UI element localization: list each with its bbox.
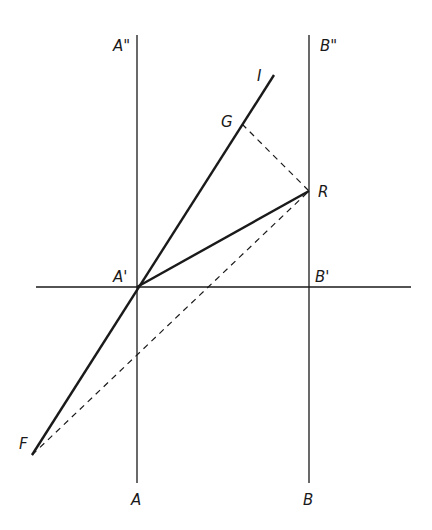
label-g: G xyxy=(221,113,233,131)
line-f-i xyxy=(32,75,274,455)
label-i: I xyxy=(257,67,262,85)
label-r: R xyxy=(318,183,328,201)
label-a: A xyxy=(130,491,141,509)
dashed-segment-f-r xyxy=(32,191,309,455)
label-a-double-prime: A" xyxy=(112,37,130,55)
dashed-segment-g-r xyxy=(242,124,309,191)
label-b-prime: B' xyxy=(315,268,329,286)
label-a-prime: A' xyxy=(112,268,127,286)
label-f: F xyxy=(19,435,28,453)
geometry-diagram: A" B" I G R A' B' F A B xyxy=(0,0,432,530)
label-b: B xyxy=(303,491,313,509)
label-b-double-prime: B" xyxy=(320,37,337,55)
